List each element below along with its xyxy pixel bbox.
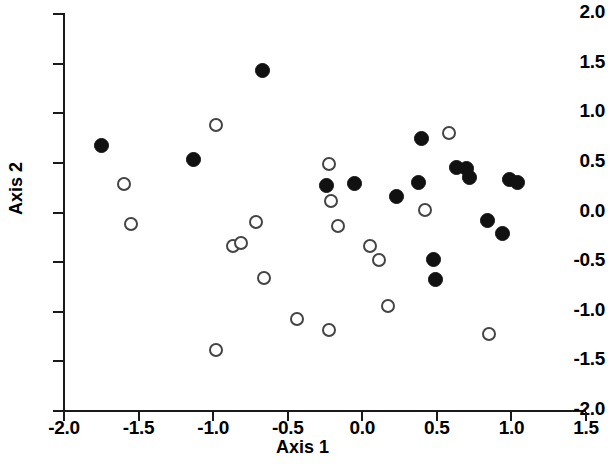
- x-tick-label: -1.5: [104, 417, 174, 439]
- y-tick-mark: [53, 112, 63, 114]
- data-point-filled: [462, 170, 477, 185]
- data-point-open: [442, 126, 456, 140]
- data-point-filled: [94, 138, 109, 153]
- data-point-filled: [411, 175, 426, 190]
- y-tick-mark: [53, 311, 63, 313]
- x-axis-line: [63, 410, 586, 412]
- x-tick-label: -2.0: [29, 417, 99, 439]
- data-point-open: [324, 194, 338, 208]
- y-tick-label: 1.5: [553, 51, 605, 73]
- y-tick-label: 1.0: [553, 100, 605, 122]
- data-point-filled: [186, 152, 201, 167]
- y-axis-line: [63, 13, 65, 412]
- data-point-open: [322, 157, 336, 171]
- data-point-filled: [255, 63, 270, 78]
- x-tick-label: -1.0: [178, 417, 248, 439]
- data-point-filled: [480, 213, 495, 228]
- y-tick-label: -1.5: [553, 348, 605, 370]
- data-point-open: [381, 299, 395, 313]
- x-tick-label: -0.5: [253, 417, 323, 439]
- data-point-filled: [389, 189, 404, 204]
- data-point-open: [209, 118, 223, 132]
- y-tick-label: -1.0: [553, 299, 605, 321]
- y-tick-mark: [53, 410, 63, 412]
- x-tick-label: 1.5: [551, 417, 610, 439]
- data-point-open: [418, 203, 432, 217]
- data-point-filled: [495, 226, 510, 241]
- y-tick-mark: [53, 360, 63, 362]
- x-axis-label: Axis 1: [0, 437, 605, 458]
- y-tick-label: 0.0: [553, 200, 605, 222]
- y-tick-label: 0.5: [553, 150, 605, 172]
- y-tick-mark: [53, 162, 63, 164]
- x-tick-label: 0.5: [402, 417, 472, 439]
- y-tick-mark: [53, 212, 63, 214]
- data-point-open: [372, 253, 386, 267]
- data-point-open: [234, 236, 248, 250]
- data-point-open: [363, 239, 377, 253]
- data-point-open: [209, 343, 223, 357]
- x-tick-label: 0.0: [327, 417, 397, 439]
- x-tick-label: 1.0: [476, 417, 546, 439]
- data-point-open: [290, 312, 304, 326]
- y-tick-mark: [53, 63, 63, 65]
- data-point-filled: [510, 175, 525, 190]
- data-point-filled: [426, 252, 441, 267]
- data-point-filled: [414, 131, 429, 146]
- data-point-open: [249, 215, 263, 229]
- data-point-filled: [347, 176, 362, 191]
- data-point-open: [124, 217, 138, 231]
- y-tick-mark: [53, 261, 63, 263]
- data-point-open: [257, 271, 271, 285]
- data-point-open: [322, 323, 336, 337]
- data-point-filled: [428, 272, 443, 287]
- y-tick-label: 2.0: [553, 1, 605, 23]
- y-tick-mark: [53, 13, 63, 15]
- data-point-open: [331, 219, 345, 233]
- y-tick-label: -0.5: [553, 249, 605, 271]
- data-point-open: [482, 327, 496, 341]
- y-axis-label: Axis 2: [6, 129, 27, 249]
- data-point-open: [117, 177, 131, 191]
- data-point-filled: [319, 178, 334, 193]
